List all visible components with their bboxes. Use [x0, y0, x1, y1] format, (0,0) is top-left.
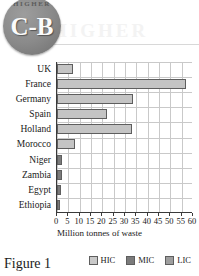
y-axis-label: Holland	[0, 122, 54, 137]
legend-label: HIC	[101, 255, 116, 265]
figure-caption: Figure 1	[4, 256, 51, 272]
legend-swatch-lic	[165, 256, 174, 265]
bar-row	[57, 107, 192, 122]
y-axis-label: Zambia	[0, 168, 54, 183]
bar	[57, 124, 132, 134]
bar-row	[57, 183, 192, 198]
y-axis-label: UK	[0, 62, 54, 77]
badge-main-text: C-B	[3, 13, 61, 41]
bar	[57, 155, 62, 165]
x-axis-title: Million tonnes of waste	[0, 228, 199, 238]
bar	[57, 170, 62, 180]
legend-item-hic: HIC	[89, 255, 116, 265]
y-axis-label: Morocco	[0, 137, 54, 152]
y-axis-label: France	[0, 77, 54, 92]
bar-row	[57, 92, 192, 107]
legend-item-lic: LIC	[165, 255, 191, 265]
x-tick-label: 60	[184, 216, 199, 226]
bar	[57, 185, 61, 195]
y-axis-label: Spain	[0, 107, 54, 122]
bar-row	[57, 137, 192, 152]
legend-swatch-mic	[126, 256, 135, 265]
page-watermark: HIGHER	[52, 20, 199, 50]
bar-row	[57, 77, 192, 92]
y-axis-label: Ethiopia	[0, 198, 54, 213]
bar-row	[57, 198, 192, 213]
legend-label: LIC	[177, 255, 191, 265]
bar	[57, 109, 107, 119]
bar	[57, 94, 133, 104]
bar	[57, 139, 75, 149]
bar	[57, 200, 60, 210]
y-axis-label: Egypt	[0, 183, 54, 198]
bar-row	[57, 122, 192, 137]
bar-row	[57, 168, 192, 183]
legend-swatch-hic	[89, 256, 98, 265]
plot-area	[56, 62, 192, 213]
bar-row	[57, 153, 192, 168]
x-axis-tick-labels: 051015202530354045505560	[0, 216, 199, 228]
y-axis-category-labels: UKFranceGermanySpainHollandMoroccoNigerZ…	[0, 62, 54, 213]
bar	[57, 64, 73, 74]
legend-item-mic: MIC	[126, 255, 154, 265]
y-axis-label: Niger	[0, 153, 54, 168]
bar	[57, 79, 186, 89]
bar-row	[57, 62, 192, 77]
bar-chart: UKFranceGermanySpainHollandMoroccoNigerZ…	[0, 56, 199, 236]
y-axis-label: Germany	[0, 92, 54, 107]
legend-label: MIC	[138, 255, 154, 265]
